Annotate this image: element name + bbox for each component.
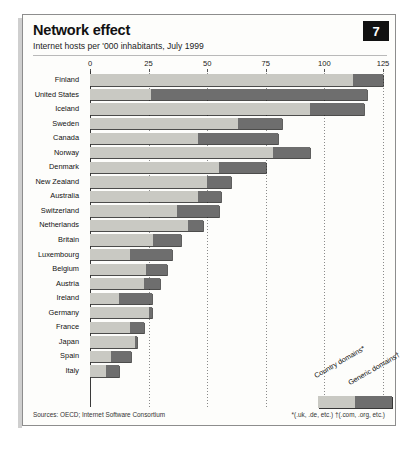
- chart-frame: Network effect Internet hosts per '000 i…: [22, 14, 396, 426]
- bar-segment-generic: [219, 162, 266, 173]
- bar-segment-country: [90, 103, 310, 114]
- x-tick-mark: [266, 69, 267, 72]
- bar-segment-generic: [207, 176, 230, 187]
- x-tick-mark: [383, 69, 384, 72]
- category-label: Japan: [33, 335, 83, 350]
- bar-segment-country: [90, 147, 273, 158]
- chart-row: [90, 218, 383, 233]
- bar-segment-generic: [146, 264, 167, 275]
- stacked-bar: [90, 293, 152, 304]
- stacked-bar: [90, 307, 152, 318]
- chart-row: [90, 204, 383, 219]
- bar-segment-country: [90, 293, 119, 304]
- bar-segment-generic: [198, 191, 221, 202]
- category-label: Denmark: [33, 160, 83, 175]
- chart-row: [90, 189, 383, 204]
- stacked-bar: [90, 351, 131, 362]
- chart-row: [90, 73, 383, 88]
- x-tick-mark: [149, 69, 150, 72]
- category-label: Norway: [33, 146, 83, 161]
- bar-segment-generic: [130, 249, 172, 260]
- bar-segment-country: [90, 322, 130, 333]
- x-tick-label: 50: [203, 59, 211, 68]
- stacked-bar: [90, 74, 383, 85]
- chart-row: [90, 102, 383, 117]
- bar-segment-country: [90, 89, 151, 100]
- stacked-bar: [90, 147, 310, 158]
- bar-segment-generic: [198, 133, 278, 144]
- category-label: Britain: [33, 233, 83, 248]
- footnote: *(.uk, .de, etc.) †(.com, .org, etc.): [292, 411, 385, 418]
- category-label: Switzerland: [33, 204, 83, 219]
- chart-row: [90, 306, 383, 321]
- bar-segment-generic: [130, 322, 144, 333]
- bar-segment-country: [90, 365, 106, 376]
- bar-segment-generic: [188, 220, 202, 231]
- header-divider: [33, 55, 387, 56]
- bar-segment-country: [90, 176, 207, 187]
- bar-segment-country: [90, 307, 149, 318]
- x-tick-label: 125: [377, 59, 390, 68]
- chart-row: [90, 277, 383, 292]
- bar-segment-country: [90, 162, 219, 173]
- stacked-bar: [90, 336, 137, 347]
- bar-segment-country: [90, 278, 144, 289]
- bar-segment-generic: [106, 365, 119, 376]
- x-axis: 0255075100125: [90, 59, 383, 71]
- chart-row: [90, 291, 383, 306]
- chart-row: [90, 320, 383, 335]
- bar-segment-country: [90, 234, 153, 245]
- bar-segment-generic: [273, 147, 311, 158]
- bar-segment-generic: [153, 234, 181, 245]
- x-tick-mark: [324, 69, 325, 72]
- chart-row: [90, 248, 383, 263]
- bar-segment-country: [90, 220, 188, 231]
- category-label: France: [33, 320, 83, 335]
- category-label: Canada: [33, 131, 83, 146]
- category-label: Finland: [33, 73, 83, 88]
- stacked-bar: [90, 176, 231, 187]
- category-label: Spain: [33, 349, 83, 364]
- chart-row: [90, 131, 383, 146]
- category-label: Netherlands: [33, 218, 83, 233]
- x-tick-label: 75: [262, 59, 270, 68]
- bar-segment-country: [90, 205, 177, 216]
- bar-segment-generic: [353, 74, 383, 85]
- chart-page: Network effect Internet hosts per '000 i…: [0, 0, 418, 453]
- page-title: Network effect: [33, 22, 130, 38]
- bar-segment-generic: [111, 351, 131, 362]
- stacked-bar: [90, 191, 221, 202]
- category-label: Australia: [33, 189, 83, 204]
- x-tick-mark: [207, 69, 208, 72]
- bar-segment-generic: [310, 103, 364, 114]
- category-label: Iceland: [33, 102, 83, 117]
- category-labels: FinlandUnited StatesIcelandSwedenCanadaN…: [33, 73, 83, 378]
- category-label: Belgium: [33, 262, 83, 277]
- legend-swatch-generic: [355, 396, 392, 408]
- stacked-bar: [90, 205, 219, 216]
- bar-segment-country: [90, 264, 146, 275]
- bar-segment-generic: [135, 336, 137, 347]
- chart-row: [90, 175, 383, 190]
- stacked-bar: [90, 103, 364, 114]
- category-label: Italy: [33, 364, 83, 379]
- bar-segment-generic: [119, 293, 152, 304]
- category-label: Ireland: [33, 291, 83, 306]
- stacked-bar: [90, 249, 172, 260]
- bar-segment-country: [90, 74, 353, 85]
- chart-subtitle: Internet hosts per '000 inhabitants, Jul…: [33, 41, 204, 51]
- chart-number-badge: 7: [363, 21, 389, 41]
- chart-row: [90, 160, 383, 175]
- chart-row: [90, 233, 383, 248]
- chart-row: [90, 88, 383, 103]
- stacked-bar: [90, 162, 266, 173]
- chart-row: [90, 335, 383, 350]
- legend-swatch: [318, 396, 392, 408]
- stacked-bar: [90, 234, 181, 245]
- chart-row: [90, 117, 383, 132]
- stacked-bar: [90, 220, 203, 231]
- plot-area: FinlandUnited StatesIcelandSwedenCanadaN…: [33, 59, 387, 407]
- bar-segment-generic: [151, 89, 367, 100]
- source-note: Sources: OECD; Internet Software Consort…: [33, 411, 165, 418]
- bar-segment-country: [90, 351, 111, 362]
